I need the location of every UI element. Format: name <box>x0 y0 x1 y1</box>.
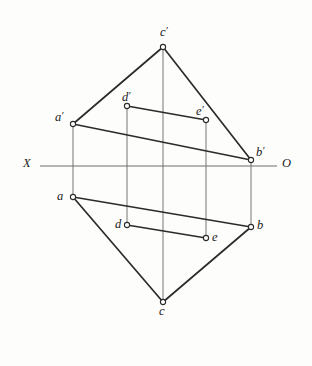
projection-figure: c′d′e′a′b′XOadebc <box>0 0 312 366</box>
edge-a_prime-c_prime <box>73 47 163 124</box>
label-a_prime: a′ <box>55 110 64 123</box>
label-text-c_prime: c <box>160 25 166 39</box>
label-text-e: e <box>212 230 218 244</box>
edge-a_prime-b_prime <box>73 124 251 160</box>
vertex-marker-e_prime <box>203 117 208 122</box>
figure-edges-group <box>73 47 251 302</box>
label-text-x_axis: X <box>23 156 31 170</box>
label-prime-mark-b_prime: ′ <box>262 144 265 156</box>
label-b_prime: b′ <box>256 145 265 158</box>
label-prime-mark-d_prime: ′ <box>128 89 131 101</box>
label-e: e <box>212 231 218 244</box>
vertex-marker-b <box>248 224 253 229</box>
label-text-a: a <box>57 189 63 203</box>
label-d: d <box>115 218 121 231</box>
label-text-c: c <box>159 304 165 318</box>
projection-lines-group <box>73 47 251 302</box>
vertex-marker-c_prime <box>160 44 165 49</box>
geometry-drawing-canvas <box>0 0 312 366</box>
label-e_prime: e′ <box>196 104 204 117</box>
label-a: a <box>57 190 63 203</box>
edge-d_prime-e_prime <box>127 106 206 120</box>
label-d_prime: d′ <box>122 90 131 103</box>
label-text-e_prime: e <box>196 104 202 118</box>
vertex-marker-a <box>70 194 75 199</box>
edge-d-e <box>127 225 206 238</box>
label-prime-mark-e_prime: ′ <box>202 103 205 115</box>
vertex-markers-group <box>70 44 253 304</box>
label-c: c <box>159 305 165 318</box>
label-prime-mark-c_prime: ′ <box>166 24 169 36</box>
label-text-d: d <box>115 217 121 231</box>
edge-c_prime-b_prime <box>163 47 251 160</box>
edge-a-c <box>73 197 163 302</box>
label-o_axis: O <box>282 157 291 170</box>
vertex-marker-b_prime <box>248 157 253 162</box>
vertex-marker-a_prime <box>70 121 75 126</box>
label-text-b: b <box>257 218 263 232</box>
vertex-marker-e <box>203 235 208 240</box>
vertex-marker-d <box>124 222 129 227</box>
label-prime-mark-a_prime: ′ <box>61 109 64 121</box>
label-x_axis: X <box>23 157 31 170</box>
edge-a-b <box>73 197 251 227</box>
label-b: b <box>257 219 263 232</box>
label-text-o_axis: O <box>282 156 291 170</box>
vertex-marker-d_prime <box>124 103 129 108</box>
label-c_prime: c′ <box>160 25 168 38</box>
